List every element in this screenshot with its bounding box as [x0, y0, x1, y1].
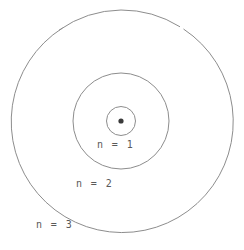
shell-label-n3: n = 3	[36, 220, 73, 230]
shell-diagram-canvas	[0, 0, 244, 250]
shell-ring-n3-arc-b	[11, 28, 233, 233]
shell-label-n1: n = 1	[97, 140, 134, 150]
shell-label-n2: n = 2	[76, 179, 113, 189]
shell-ring-n3-arc-a	[121, 10, 180, 27]
shell-ring-n3-arc-c	[59, 10, 121, 30]
bohr-model-diagram: n = 1 n = 2 n = 3	[0, 0, 244, 250]
nucleus-dot	[118, 118, 123, 123]
